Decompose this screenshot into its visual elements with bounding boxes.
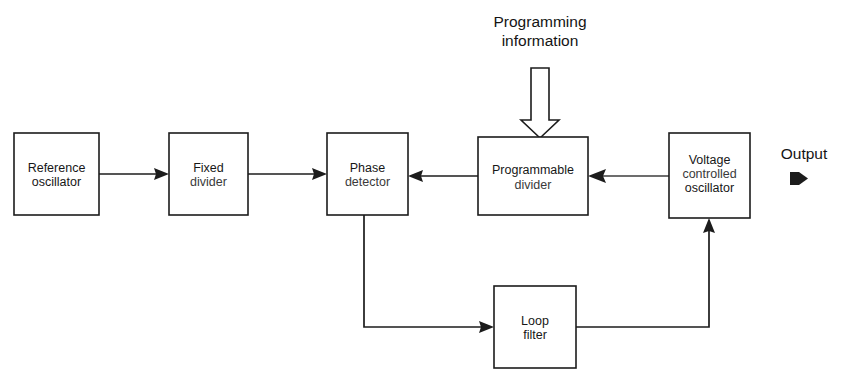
connector-ref-to-fixed (99, 168, 169, 180)
programming-information-block-arrow (521, 68, 559, 138)
block-diagram-svg: Reference oscillator Fixed divider Phase… (0, 0, 853, 388)
connector-phase-to-loopfilter (364, 215, 494, 333)
reference-oscillator-label-line1: Reference (28, 161, 86, 175)
phase-detector-label-line2: detector (345, 175, 390, 189)
connector-loopfilter-to-vco (576, 218, 715, 327)
connector-vco-to-progdiv (588, 169, 669, 183)
block-phase-detector[interactable]: Phase detector (327, 133, 408, 215)
reference-oscillator-label-line2: oscillator (32, 175, 81, 189)
vco-label-line1: Voltage (689, 153, 731, 167)
output-arrow-marker (790, 172, 808, 185)
block-voltage-controlled-oscillator[interactable]: Voltage controlled oscillator (669, 133, 750, 218)
connector-fixed-to-phase (248, 168, 327, 180)
block-fixed-divider[interactable]: Fixed divider (169, 133, 248, 215)
loop-filter-label-line2: filter (523, 328, 547, 342)
block-diagram-canvas: Reference oscillator Fixed divider Phase… (0, 0, 853, 388)
loop-filter-label-line1: Loop (521, 314, 549, 328)
programming-information-line2: information (502, 32, 579, 49)
block-loop-filter[interactable]: Loop filter (494, 286, 576, 368)
vco-label-line3: oscillator (685, 181, 734, 195)
block-programmable-divider[interactable]: Programmable divider (478, 137, 588, 215)
fixed-divider-label-line2: divider (190, 175, 227, 189)
programming-information-line1: Programming (493, 13, 586, 30)
phase-detector-label-line1: Phase (350, 161, 385, 175)
output-annotation: Output (781, 145, 828, 185)
fixed-divider-label-line1: Fixed (193, 161, 224, 175)
output-label: Output (781, 145, 828, 162)
programmable-divider-label-line2: divider (515, 178, 552, 192)
vco-label-line2: controlled (682, 167, 736, 181)
block-reference-oscillator[interactable]: Reference oscillator (14, 133, 99, 215)
connector-progdiv-to-phase (408, 170, 478, 182)
programming-information-caption: Programming information (493, 13, 586, 49)
programmable-divider-label-line1: Programmable (492, 163, 574, 177)
